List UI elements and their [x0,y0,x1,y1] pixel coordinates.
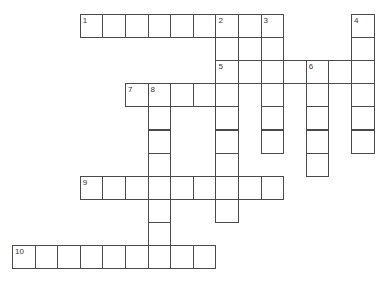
clue-number: 10 [15,247,24,256]
crossword-cell[interactable] [328,60,352,84]
crossword-cell[interactable] [306,130,330,154]
clue-number: 1 [83,16,87,25]
crossword-cell[interactable] [238,176,262,200]
crossword-cell[interactable] [351,60,375,84]
crossword-cell[interactable]: 3 [261,14,285,38]
clue-number: 9 [83,178,87,187]
crossword-cell[interactable] [148,176,172,200]
crossword-cell[interactable] [193,245,217,269]
crossword-cell[interactable] [57,245,81,269]
crossword-cell[interactable] [215,106,239,130]
crossword-cell[interactable]: 8 [148,83,172,107]
crossword-cell[interactable] [238,14,262,38]
crossword-cell[interactable] [148,245,172,269]
crossword-cell[interactable] [148,222,172,246]
crossword-cell[interactable] [170,83,194,107]
crossword-cell[interactable] [125,14,149,38]
crossword-cell[interactable] [35,245,59,269]
crossword-cell[interactable] [261,176,285,200]
crossword-cell[interactable] [261,130,285,154]
crossword-cell[interactable] [351,37,375,61]
crossword-cell[interactable] [351,83,375,107]
crossword-cell[interactable] [193,14,217,38]
crossword-cell[interactable] [215,153,239,177]
clue-number: 6 [309,62,313,71]
crossword-cell[interactable] [125,176,149,200]
crossword-cell[interactable] [148,106,172,130]
crossword-cell[interactable]: 1 [80,14,104,38]
crossword-cell[interactable]: 9 [80,176,104,200]
crossword-cell[interactable]: 5 [215,60,239,84]
crossword-cell[interactable] [215,83,239,107]
crossword-grid: 12354678910 [0,0,384,286]
clue-number: 5 [218,62,222,71]
crossword-cell[interactable] [306,106,330,130]
crossword-cell[interactable] [102,176,126,200]
crossword-cell[interactable] [215,176,239,200]
clue-number: 7 [128,85,132,94]
crossword-cell[interactable] [351,130,375,154]
crossword-cell[interactable]: 7 [125,83,149,107]
crossword-cell[interactable] [170,176,194,200]
crossword-cell[interactable] [261,37,285,61]
crossword-cell[interactable] [283,60,307,84]
clue-number: 4 [354,16,358,25]
crossword-cell[interactable] [170,14,194,38]
crossword-cell[interactable] [102,14,126,38]
crossword-cell[interactable] [80,245,104,269]
crossword-cell[interactable] [193,176,217,200]
crossword-cell[interactable] [215,130,239,154]
crossword-cell[interactable] [148,14,172,38]
crossword-cell[interactable] [148,199,172,223]
clue-number: 2 [218,16,222,25]
crossword-cell[interactable] [125,245,149,269]
crossword-cell[interactable]: 4 [351,14,375,38]
crossword-cell[interactable] [102,245,126,269]
clue-number: 3 [264,16,268,25]
clue-number: 8 [151,85,155,94]
crossword-cell[interactable] [238,60,262,84]
crossword-cell[interactable] [215,199,239,223]
crossword-cell[interactable]: 2 [215,14,239,38]
crossword-cell[interactable] [306,153,330,177]
crossword-cell[interactable]: 6 [306,60,330,84]
crossword-cell[interactable] [261,106,285,130]
crossword-cell[interactable] [351,106,375,130]
crossword-cell[interactable] [148,153,172,177]
crossword-cell[interactable] [148,130,172,154]
crossword-cell[interactable] [193,83,217,107]
crossword-cell[interactable] [170,245,194,269]
crossword-cell[interactable] [215,37,239,61]
crossword-cell[interactable]: 10 [12,245,36,269]
crossword-cell[interactable] [261,83,285,107]
crossword-cell[interactable] [306,83,330,107]
crossword-cell[interactable] [261,60,285,84]
